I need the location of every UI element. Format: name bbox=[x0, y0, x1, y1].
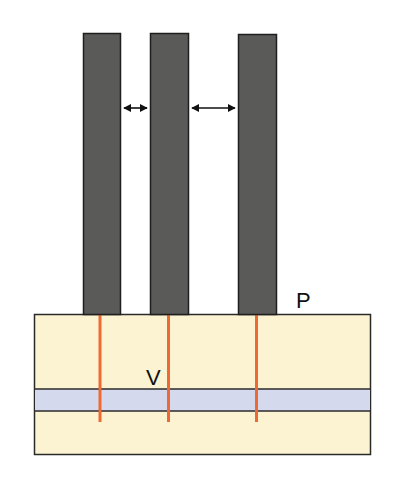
ground-block bbox=[35, 315, 371, 455]
column-2 bbox=[151, 34, 189, 315]
ground-upper-layer bbox=[35, 315, 371, 455]
horizontal-band bbox=[35, 389, 370, 411]
pile-diagram bbox=[0, 0, 394, 491]
label-p: P bbox=[296, 290, 311, 312]
label-v: V bbox=[146, 367, 161, 389]
columns bbox=[84, 34, 277, 315]
column-3 bbox=[239, 35, 277, 315]
column-1 bbox=[84, 34, 121, 315]
